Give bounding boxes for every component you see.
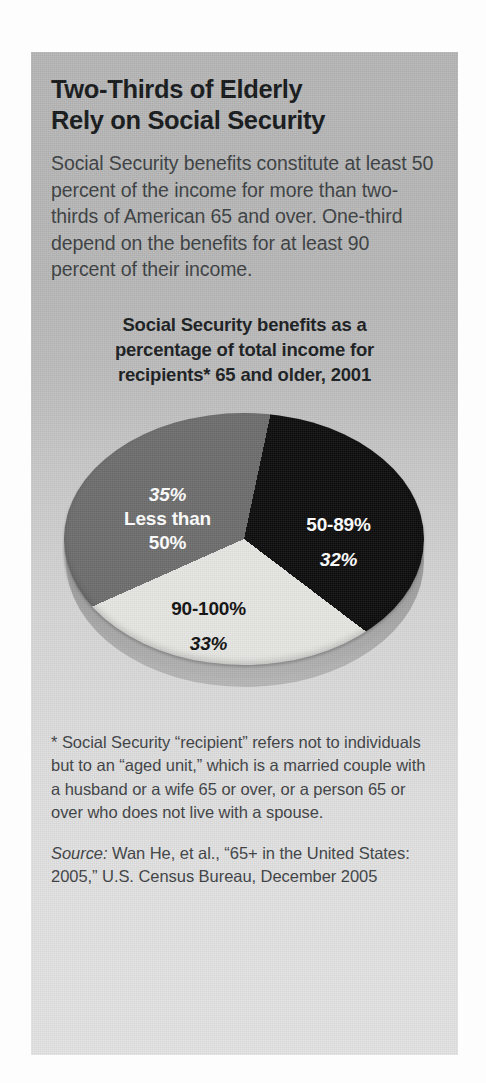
pie-label-50-89: 50-89% 32% xyxy=(274,513,404,572)
pie-label-50-89-name: 50-89% xyxy=(274,513,404,537)
chart-title-line-2: percentage of total income for xyxy=(51,337,438,362)
pie-chart: 50-89% 32% 35% Less than 50% 90-100% 33% xyxy=(51,391,438,727)
source-line: Source: Wan He, et al., “65+ in the Unit… xyxy=(51,825,438,911)
infographic-panel: Two-Thirds of Elderly Rely on Social Sec… xyxy=(31,52,458,1055)
panel-content: Two-Thirds of Elderly Rely on Social Sec… xyxy=(31,52,458,911)
pie-label-less-than-50: 35% Less than 50% xyxy=(88,483,248,555)
headline-line-2: Rely on Social Security xyxy=(51,105,438,136)
pie-label-90-100-name: 90-100% xyxy=(124,597,294,621)
chart-title: Social Security benefits as a percentage… xyxy=(51,283,438,387)
headline-line-1: Two-Thirds of Elderly xyxy=(51,75,302,103)
pie-label-less-than-50-name: Less than xyxy=(88,507,248,531)
page-title: Two-Thirds of Elderly Rely on Social Sec… xyxy=(51,52,438,136)
page-canvas: Two-Thirds of Elderly Rely on Social Sec… xyxy=(0,0,486,1083)
pie-chart-graphic: 50-89% 32% 35% Less than 50% 90-100% 33% xyxy=(64,413,426,703)
chart-title-line-3: recipients* 65 and older, 2001 xyxy=(51,362,438,387)
pie-label-less-than-50-value: 35% xyxy=(88,483,248,507)
footnote-text: * Social Security “recipient” refers not… xyxy=(51,727,438,825)
pie-label-less-than-50-name2: 50% xyxy=(88,531,248,555)
pie-label-90-100: 90-100% 33% xyxy=(124,597,294,656)
pie-label-50-89-value: 32% xyxy=(274,537,404,572)
intro-paragraph: Social Security benefits constitute at l… xyxy=(51,136,438,283)
pie-label-90-100-value: 33% xyxy=(124,621,294,656)
chart-title-line-1: Social Security benefits as a xyxy=(51,312,438,337)
source-label: Source: xyxy=(51,844,108,862)
